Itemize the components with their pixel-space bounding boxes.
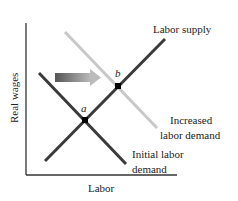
initial-demand-label-line1: Initial labor bbox=[132, 148, 184, 160]
point-a-label: a bbox=[81, 102, 87, 114]
labor-market-diagram: a b Labor supply Increased labor demand … bbox=[0, 0, 238, 201]
increased-demand-label-line2: labor demand bbox=[160, 129, 221, 141]
point-b-label: b bbox=[115, 67, 121, 79]
equilibrium-point-b bbox=[115, 83, 121, 89]
equilibrium-point-a bbox=[82, 117, 88, 123]
labor-supply-label: Labor supply bbox=[153, 23, 212, 35]
y-axis-label: Real wages bbox=[8, 73, 20, 123]
x-axis-label: Labor bbox=[88, 182, 115, 194]
demand-shift-arrow-icon bbox=[55, 69, 101, 86]
initial-demand-label-line2: demand bbox=[132, 163, 167, 175]
increased-demand-label-line1: Increased bbox=[170, 114, 213, 126]
